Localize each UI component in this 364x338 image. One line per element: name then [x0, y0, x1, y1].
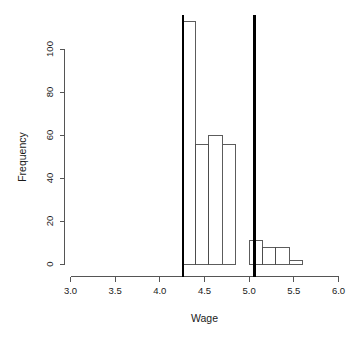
histogram-bar: [289, 260, 302, 264]
histogram-bar: [222, 144, 235, 264]
x-axis-title: Wage: [191, 312, 218, 324]
y-tick-label-20: 20: [44, 216, 55, 227]
x-tick-label-6-0: 6.0: [332, 285, 345, 296]
y-tick-label-60: 60: [44, 130, 55, 141]
chart-canvas: 0 20 40 60 80 100 Frequency 3.0 3.5 4.0 …: [0, 0, 364, 338]
histogram-bar: [263, 247, 276, 264]
y-axis-title: Frequency: [16, 131, 28, 181]
y-tick-label-80: 80: [44, 87, 55, 98]
histogram-bar: [276, 247, 289, 264]
x-tick-label-3-0: 3.0: [64, 285, 77, 296]
x-tick-label-5-5: 5.5: [287, 285, 300, 296]
x-tick-label-3-5: 3.5: [109, 285, 122, 296]
y-tick-label-40: 40: [44, 173, 55, 184]
y-tick-label-100: 100: [44, 41, 55, 57]
y-tick-label-0: 0: [44, 261, 55, 266]
x-tick-label-5-0: 5.0: [243, 285, 256, 296]
histogram-bar: [249, 241, 262, 265]
histogram-chart: 0 20 40 60 80 100 Frequency 3.0 3.5 4.0 …: [0, 0, 364, 338]
histogram-bar: [196, 144, 209, 264]
x-tick-label-4-0: 4.0: [153, 285, 166, 296]
histogram-bar: [209, 136, 222, 265]
x-tick-label-4-5: 4.5: [198, 285, 211, 296]
